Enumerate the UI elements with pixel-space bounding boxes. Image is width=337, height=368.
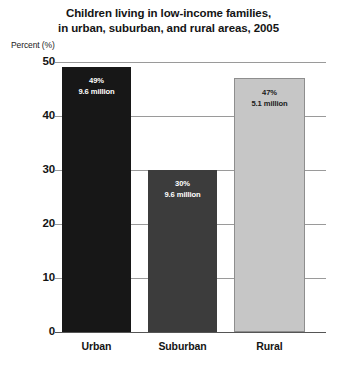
ytick-wrap-40: 40 (0, 109, 55, 123)
x-axis-baseline (55, 332, 326, 333)
ytick-wrap-10: 10 (0, 271, 55, 285)
ytick-wrap-30: 30 (0, 163, 55, 177)
bar-suburban-percent: 30% (148, 179, 217, 190)
ytick-wrap-50: 50 (0, 55, 55, 69)
ytick-label-10: 10 (17, 271, 55, 283)
bar-urban-labels: 49% 9.6 million (62, 76, 131, 97)
bar-urban-count: 9.6 million (62, 87, 131, 98)
category-label-rural: Rural (234, 340, 305, 352)
bar-suburban[interactable]: 30% 9.6 million (148, 170, 217, 332)
bar-rural-percent: 47% (235, 88, 304, 99)
bar-urban[interactable]: 49% 9.6 million (62, 67, 131, 332)
ytick-label-30: 30 (17, 163, 55, 175)
bar-suburban-count: 9.6 million (148, 190, 217, 201)
ytick-wrap-0: 0 (0, 325, 55, 339)
category-label-suburban: Suburban (148, 340, 217, 352)
bar-rural-count: 5.1 million (235, 99, 304, 110)
ytick-label-20: 20 (17, 217, 55, 229)
bar-rural-labels: 47% 5.1 million (235, 88, 304, 109)
bar-suburban-labels: 30% 9.6 million (148, 179, 217, 200)
bar-urban-percent: 49% (62, 76, 131, 87)
gridline-50 (55, 62, 326, 63)
bar-rural[interactable]: 47% 5.1 million (234, 78, 305, 332)
ytick-label-50: 50 (17, 55, 55, 67)
plot-area: 50 40 30 20 10 0 49% 9.6 million 30% 9.6… (0, 0, 337, 368)
ytick-label-0: 0 (17, 325, 55, 337)
category-label-urban: Urban (62, 340, 131, 352)
ytick-label-40: 40 (17, 109, 55, 121)
ytick-wrap-20: 20 (0, 217, 55, 231)
